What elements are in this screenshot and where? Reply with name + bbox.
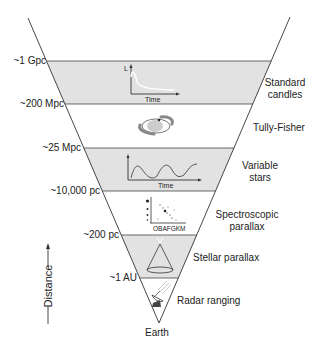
- spiral-galaxy-icon: [140, 117, 173, 134]
- hr-diagram-icon: [146, 197, 186, 223]
- distance-label-200pc: ~200 pc: [83, 229, 119, 241]
- method-label-radar-ranging: Radar ranging: [177, 295, 240, 307]
- method-label-standard-candles: Standard candles: [256, 77, 314, 101]
- earth-label: Earth: [145, 327, 169, 339]
- distance-label-1au: ~1 AU: [109, 272, 137, 284]
- distance-label-200mpc: ~200 Mpc: [20, 98, 64, 110]
- method-label-variable-stars: Variable stars: [230, 160, 290, 184]
- icon-label-spectral-classes: OBAFGKM: [153, 225, 186, 232]
- distance-label-1gpc: ~1 Gpc: [13, 55, 46, 67]
- icon-label-L: L: [124, 65, 128, 72]
- icon-label-time-2: Time: [158, 182, 173, 189]
- icon-label-time-1: Time: [145, 96, 160, 103]
- method-label-tully-fisher: Tully-Fisher: [246, 122, 312, 134]
- method-label-spectroscopic-parallax: Spectroscopic parallax: [207, 209, 287, 233]
- distance-axis-label: Distance: [42, 263, 54, 309]
- distance-label-25mpc: ~25 Mpc: [42, 142, 81, 154]
- radar-dish-icon: [152, 281, 171, 307]
- distance-label-10000pc: ~10,000 pc: [50, 185, 100, 197]
- method-label-stellar-parallax: Stellar parallax: [193, 252, 259, 264]
